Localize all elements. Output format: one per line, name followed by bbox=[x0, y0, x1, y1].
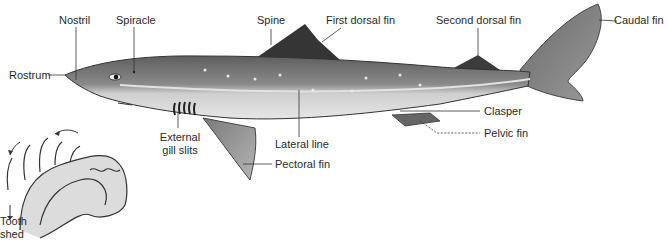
label-caudal-fin: Caudal fin bbox=[614, 14, 664, 27]
label-spine: Spine bbox=[257, 14, 285, 27]
pelvic-fin bbox=[392, 113, 440, 126]
label-second-dorsal-fin: Second dorsal fin bbox=[436, 14, 521, 27]
caudal-fin bbox=[520, 4, 601, 101]
label-lateral-line: Lateral line bbox=[275, 138, 329, 151]
label-clasper: Clasper bbox=[484, 105, 522, 118]
pectoral-fin bbox=[203, 118, 256, 180]
label-external-gill-slits: External gill slits bbox=[157, 131, 203, 157]
label-tooth-shed: Tooth shed bbox=[0, 215, 27, 241]
label-first-dorsal-fin: First dorsal fin bbox=[326, 14, 395, 27]
label-nostril: Nostril bbox=[59, 14, 90, 27]
spiracle-dot bbox=[133, 71, 135, 73]
label-rostrum: Rostrum bbox=[9, 69, 51, 82]
label-pelvic-fin: Pelvic fin bbox=[484, 127, 528, 140]
label-spiracle: Spiracle bbox=[116, 14, 156, 27]
first-dorsal-fin bbox=[256, 24, 340, 60]
label-pectoral-fin: Pectoral fin bbox=[275, 158, 330, 171]
shark-diagram bbox=[0, 0, 668, 242]
